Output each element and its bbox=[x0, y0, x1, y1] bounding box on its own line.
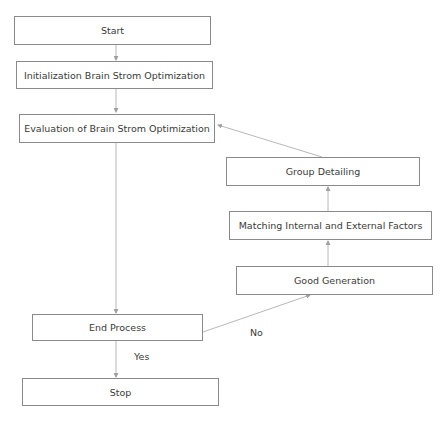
node-end-label: End Process bbox=[89, 322, 146, 333]
node-eval-label: Evaluation of Brain Strom Optimization bbox=[24, 123, 210, 134]
node-init-label: Initialization Brain Strom Optimization bbox=[24, 70, 205, 81]
edge-label-no: No bbox=[250, 327, 263, 338]
node-matching-label: Matching Internal and External Factors bbox=[239, 220, 423, 231]
node-stop: Stop bbox=[22, 378, 219, 406]
edge-label-yes: Yes bbox=[134, 351, 149, 362]
node-start-label: Start bbox=[101, 25, 124, 36]
node-matching-factors: Matching Internal and External Factors bbox=[229, 211, 432, 240]
node-group-detailing: Group Detailing bbox=[226, 157, 420, 186]
edge-group-eval bbox=[218, 125, 322, 157]
node-evaluation: Evaluation of Brain Strom Optimization bbox=[19, 114, 215, 143]
node-good-label: Good Generation bbox=[294, 275, 375, 286]
node-stop-label: Stop bbox=[110, 387, 132, 398]
node-good-generation: Good Generation bbox=[236, 266, 433, 295]
node-initialization: Initialization Brain Strom Optimization bbox=[16, 61, 213, 89]
node-start: Start bbox=[14, 16, 211, 45]
node-end-process: End Process bbox=[32, 314, 203, 341]
node-group-label: Group Detailing bbox=[286, 166, 361, 177]
